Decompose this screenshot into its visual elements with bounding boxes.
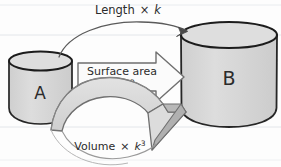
cylinder-b-label: B — [222, 67, 235, 89]
volume-arrow-label: Volume×k3 — [74, 139, 146, 153]
length-label-operator: × — [140, 3, 150, 17]
surface-label-text: Surface area — [87, 65, 157, 78]
volume-label-text: Volume — [74, 140, 115, 153]
cylinder-a-top — [9, 52, 72, 71]
length-label-text: Length — [95, 3, 135, 17]
surface-area-arrow-label: Surface area — [87, 65, 157, 78]
volume-label-exponent: 3 — [141, 139, 146, 148]
cylinder-b-top — [181, 22, 277, 48]
length-arrow — [59, 22, 188, 57]
volume-label-operator: × — [120, 140, 129, 153]
diagram-canvas: A B Length×k Surface area ×k2 — [0, 0, 281, 167]
cylinder-a-label: A — [34, 83, 46, 103]
length-arrow-curve — [59, 22, 187, 57]
similar-solids-diagram: A B Length×k Surface area ×k2 — [0, 0, 281, 167]
